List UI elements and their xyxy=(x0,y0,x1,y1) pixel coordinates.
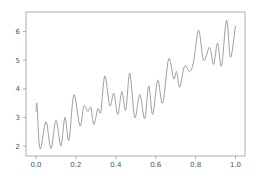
data-line xyxy=(36,20,236,149)
line-chart-figure: 0.00.20.40.60.81.0 23456 xyxy=(0,0,259,179)
x-axis-ticks: 0.00.20.40.60.81.0 xyxy=(30,156,241,169)
y-tick-label: 4 xyxy=(16,85,21,93)
chart-canvas: 0.00.20.40.60.81.0 23456 xyxy=(0,0,259,179)
x-tick-label: 1.0 xyxy=(230,161,241,169)
x-tick-label: 0.0 xyxy=(30,161,41,169)
x-tick-label: 0.6 xyxy=(150,161,162,169)
y-tick-label: 6 xyxy=(16,28,21,36)
y-tick-label: 2 xyxy=(16,143,20,151)
x-tick-label: 0.8 xyxy=(190,161,201,169)
x-tick-label: 0.2 xyxy=(70,161,81,169)
y-axis-ticks: 23456 xyxy=(16,28,26,150)
y-tick-label: 3 xyxy=(16,114,20,122)
y-tick-label: 5 xyxy=(16,57,20,65)
x-tick-label: 0.4 xyxy=(110,161,122,169)
